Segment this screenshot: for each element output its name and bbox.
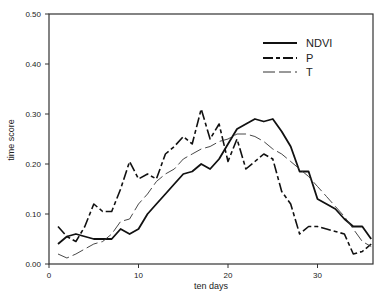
x-tick-label: 0 [47,271,52,280]
x-tick-label: 20 [224,271,233,280]
x-axis-label: ten days [194,281,229,291]
y-tick-label: 0.20 [25,160,41,169]
plot-frame [49,14,373,264]
series-line-t [58,134,371,258]
y-tick-label: 0.40 [25,60,41,69]
x-tick-label: 30 [313,271,322,280]
y-tick-label: 0.10 [25,210,41,219]
y-tick-label: 0.00 [25,260,41,269]
series-lines [58,109,371,258]
y-tick-label: 0.50 [25,10,41,19]
legend-label-ndvi: NDVI [306,37,332,49]
y-tick-label: 0.30 [25,110,41,119]
line-chart: 0.000.100.200.300.400.50 0102030 time sc… [0,0,382,304]
legend-label-t: T [306,66,313,78]
series-line-ndvi [58,119,371,244]
legend: NDVI P T [263,37,332,78]
x-tick-label: 10 [134,271,143,280]
series-line-p [58,109,371,254]
y-axis: 0.000.100.200.300.400.50 [25,10,49,269]
x-axis: 0102030 [47,264,323,280]
legend-label-p: P [306,52,313,64]
y-axis-label: time score [6,119,16,161]
